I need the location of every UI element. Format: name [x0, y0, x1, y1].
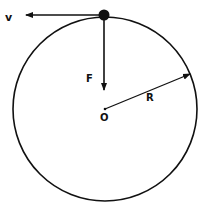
radius-label: R — [146, 92, 154, 103]
force-label: F — [86, 73, 93, 84]
center-point — [104, 108, 107, 111]
particle-dot — [99, 10, 110, 21]
center-label: O — [100, 112, 109, 123]
velocity-label: v — [5, 11, 13, 24]
circular-motion-diagram: v F R O — [0, 0, 203, 208]
